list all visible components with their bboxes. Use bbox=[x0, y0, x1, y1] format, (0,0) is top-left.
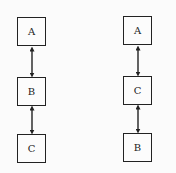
right-node-b: B bbox=[123, 133, 152, 162]
right-node-c: C bbox=[123, 76, 152, 105]
right-node-a: A bbox=[123, 16, 152, 45]
node-label: B bbox=[134, 142, 141, 153]
left-node-b: B bbox=[17, 77, 46, 106]
node-label: B bbox=[28, 86, 35, 97]
left-node-c: C bbox=[17, 134, 46, 163]
node-label: C bbox=[134, 85, 142, 96]
node-label: C bbox=[28, 143, 36, 154]
left-node-a: A bbox=[17, 17, 46, 46]
node-label: A bbox=[28, 26, 35, 37]
node-label: A bbox=[134, 25, 141, 36]
